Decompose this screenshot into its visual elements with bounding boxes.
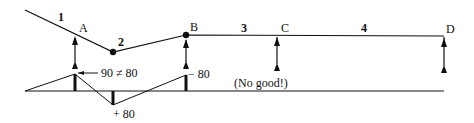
label-C: C — [281, 21, 289, 35]
leader-arrow-icon — [78, 71, 84, 75]
support-arrows — [75, 37, 444, 66]
arrowheads — [72, 36, 447, 48]
hinge-node — [110, 49, 116, 55]
beam-moment-diagram: A B C D 1 2 3 4 90 ≠ 80 + 80 − 80 (No go… — [0, 0, 474, 123]
label-A: A — [79, 21, 88, 35]
label-D: D — [446, 22, 455, 36]
span-1-label: 1 — [58, 10, 64, 24]
deflected-beam — [25, 10, 444, 52]
span-3-label: 3 — [241, 21, 247, 35]
span-4-label: 4 — [361, 21, 367, 35]
moment-label-A: 90 ≠ 80 — [101, 66, 138, 80]
note-no-good: (No good!) — [234, 76, 288, 90]
moment-label-hinge: + 80 — [113, 107, 135, 121]
moment-label-B: − 80 — [188, 67, 210, 81]
node-B — [183, 32, 189, 38]
span-2-label: 2 — [118, 35, 124, 49]
label-B: B — [190, 20, 198, 34]
